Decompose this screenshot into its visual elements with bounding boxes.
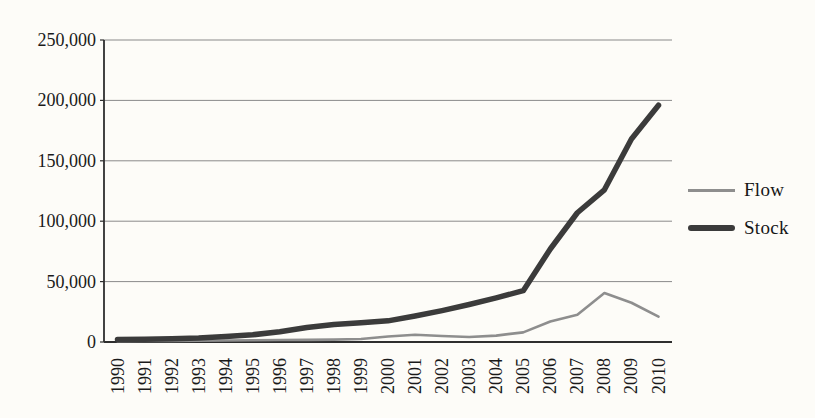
flow-line-swatch: [688, 189, 735, 192]
y-axis-label: 100,000: [38, 211, 97, 231]
x-axis-label: 2007: [567, 358, 587, 394]
scanned-chart-page: 050,000100,000150,000200,000250,00019901…: [0, 0, 815, 418]
x-axis-label: 1994: [216, 358, 236, 394]
x-axis-label: 2000: [378, 358, 398, 394]
y-axis-label: 200,000: [38, 90, 97, 110]
chart-legend: Flow Stock: [688, 171, 789, 247]
x-axis-label: 1999: [351, 358, 371, 394]
y-axis-label: 250,000: [38, 30, 97, 50]
x-axis-label: 1997: [297, 358, 317, 394]
x-axis-label: 1998: [324, 358, 344, 394]
y-axis-label: 50,000: [47, 272, 97, 292]
x-axis-label: 2003: [459, 358, 479, 394]
series-line-flow: [118, 293, 659, 341]
x-axis-label: 1995: [243, 358, 263, 394]
legend-item-stock: Stock: [688, 209, 789, 247]
x-axis-label: 2009: [621, 358, 641, 394]
x-axis-label: 2006: [540, 358, 560, 394]
x-axis-label: 2010: [649, 358, 669, 394]
x-axis-label: 2002: [432, 358, 452, 394]
legend-label-flow: Flow: [744, 179, 784, 201]
x-axis-label: 2004: [486, 358, 506, 394]
x-axis-label: 1993: [189, 358, 209, 394]
x-axis-label: 1992: [162, 358, 182, 394]
stock-line-swatch: [688, 225, 735, 231]
x-axis-label: 1991: [135, 358, 155, 394]
legend-label-stock: Stock: [744, 217, 789, 239]
x-axis-label: 2001: [405, 358, 425, 394]
x-axis-label: 2008: [594, 358, 614, 394]
y-axis-label: 150,000: [38, 151, 97, 171]
legend-item-flow: Flow: [688, 171, 789, 209]
x-axis-label: 2005: [513, 358, 533, 394]
y-axis-label: 0: [87, 332, 96, 352]
x-axis-label: 1996: [270, 358, 290, 394]
series-line-stock: [118, 105, 659, 339]
x-axis-label: 1990: [108, 358, 128, 394]
